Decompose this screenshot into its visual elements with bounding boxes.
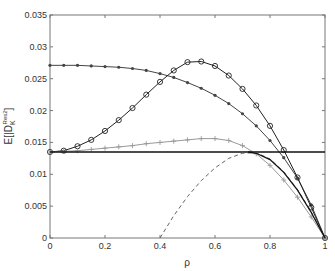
x-tick-label: 0: [47, 241, 52, 251]
plus-marker: [213, 136, 218, 141]
plus-series-line: [50, 139, 325, 238]
asterisk-marker: [268, 139, 271, 142]
asterisk-marker: [48, 64, 51, 67]
asterisk-marker: [145, 69, 148, 72]
plus-marker: [171, 139, 176, 144]
asterisk-marker: [76, 64, 79, 67]
y-tick-label: 0.015: [24, 137, 47, 147]
asterisk-marker: [282, 156, 285, 159]
plus-marker: [199, 136, 204, 141]
x-axis-label: ρ: [184, 257, 190, 268]
y-tick-label: 0: [42, 233, 47, 243]
asterisk-marker: [172, 76, 175, 79]
chart: 00.20.40.60.8100.0050.010.0150.020.0250.…: [0, 0, 335, 271]
x-tick-label: 0.4: [154, 241, 167, 251]
y-tick-label: 0.035: [24, 10, 47, 20]
asterisk-marker: [90, 64, 93, 67]
x-tick-label: 0.2: [99, 241, 112, 251]
y-axis-label: E[|DKRes2]: [2, 107, 16, 144]
plus-marker: [89, 147, 94, 152]
ticks: 00.20.40.60.8100.0050.010.0150.020.0250.…: [24, 10, 327, 251]
asterisk-marker: [255, 124, 258, 127]
plus-marker: [103, 146, 108, 151]
asterisk-marker: [213, 94, 216, 97]
plus-marker: [226, 138, 231, 143]
asterisk-marker: [227, 102, 230, 105]
y-tick-label: 0.025: [24, 74, 47, 84]
asterisk-marker: [117, 66, 120, 69]
asterisk-marker: [186, 81, 189, 84]
solid-tail-series: [248, 152, 325, 238]
plus-marker: [130, 143, 135, 148]
asterisk-marker: [241, 112, 244, 115]
x-tick-label: 1: [322, 241, 327, 251]
y-tick-label: 0.02: [29, 106, 47, 116]
y-tick-label: 0.03: [29, 42, 47, 52]
asterisk-marker: [131, 67, 134, 70]
series-group: [47, 59, 327, 241]
plus-marker: [144, 141, 149, 146]
solid-tail-series-line: [248, 152, 325, 238]
y-tick-label: 0.005: [24, 201, 47, 211]
asterisk-marker: [103, 65, 106, 68]
x-tick-label: 0.8: [264, 241, 277, 251]
x-tick-label: 0.6: [209, 241, 222, 251]
plus-marker: [240, 143, 245, 148]
asterisk-marker: [62, 64, 65, 67]
asterisk-marker: [158, 72, 161, 75]
y-tick-label: 0.01: [29, 169, 47, 179]
plot-frame: [50, 15, 325, 238]
plus-marker: [185, 137, 190, 142]
plus-marker: [116, 144, 121, 149]
asterisk-marker: [200, 87, 203, 90]
plus-marker: [158, 140, 163, 145]
